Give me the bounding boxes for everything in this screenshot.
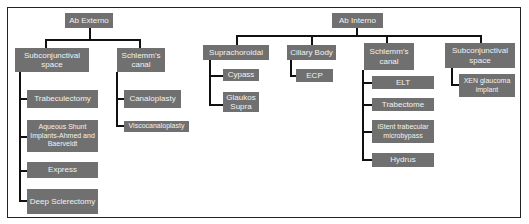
connector (209, 104, 223, 106)
connector (209, 75, 223, 77)
node-externo-schlemms: Schlemm's canal (117, 48, 165, 72)
node-istent: iStent trabecular microbypass (372, 120, 434, 143)
node-interno-subconjunctival: Subconjunctival space (445, 43, 515, 68)
connector (45, 39, 140, 41)
connector (311, 35, 313, 45)
node-interno-suprachoroidal: Suprachoroidal (203, 45, 269, 60)
connector (236, 35, 481, 37)
node-viscocanaloplasty: Viscocanaloplasty (124, 121, 189, 132)
node-express: Express (27, 162, 98, 178)
node-xen-implant: XEN glaucoma implant (459, 74, 515, 97)
connector (236, 35, 238, 45)
connector (386, 35, 388, 43)
node-cypass: Cypass (223, 69, 259, 81)
connector (290, 60, 292, 76)
node-ab-interno: Ab Interno (332, 13, 383, 28)
connector (139, 39, 141, 48)
connector (451, 68, 453, 85)
node-trabeculectomy: Trabeculectomy (27, 90, 98, 108)
node-glaukos-supra: Glaukos Supra (223, 92, 259, 112)
node-ab-externo: Ab Externo (65, 13, 113, 28)
connector (209, 60, 211, 105)
node-ecp: ECP (296, 69, 333, 82)
node-externo-subconjunctival: Subconjunctival space (15, 48, 89, 72)
node-canaloplasty: Canaloplasty (124, 90, 181, 108)
connector (480, 35, 482, 43)
node-elt: ELT (372, 76, 434, 89)
node-interno-schlemms: Schlemm's canal (364, 43, 414, 70)
connector (362, 70, 364, 160)
connector (45, 39, 47, 48)
node-interno-ciliary-body: Ciliary Body (287, 45, 336, 60)
node-deep-sclerectomy: Deep Sclerectomy (27, 189, 98, 214)
node-aqueous-shunt: Aqueous Shunt Implants-Ahmed and Baervel… (27, 120, 98, 152)
node-hydrus: Hydrus (372, 153, 434, 167)
node-trabectome: Trabectome (372, 98, 434, 111)
